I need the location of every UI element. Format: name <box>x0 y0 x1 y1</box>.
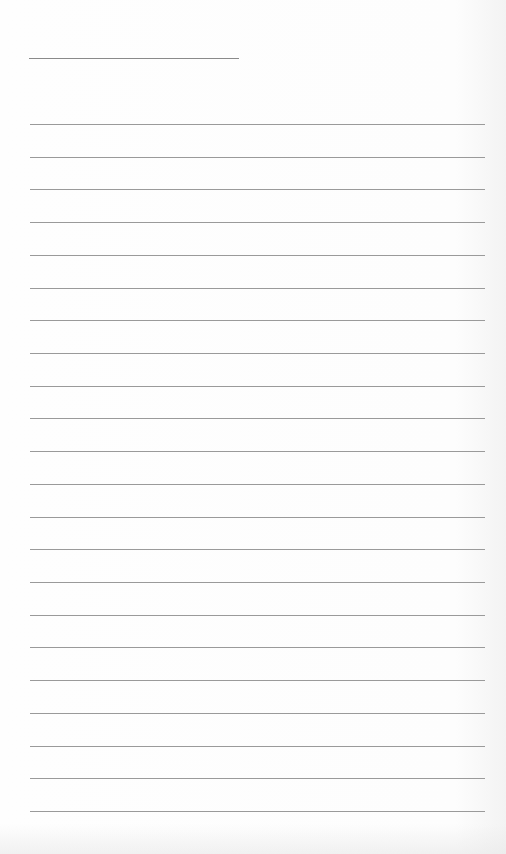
ruled-line <box>30 451 485 452</box>
ruled-line <box>30 157 485 158</box>
ruled-line <box>30 517 485 518</box>
ruled-line <box>30 582 485 583</box>
ruled-line <box>30 189 485 190</box>
ruled-line <box>30 386 485 387</box>
ruled-line <box>30 484 485 485</box>
ruled-line <box>30 288 485 289</box>
ruled-line <box>30 680 485 681</box>
ruled-line <box>30 320 485 321</box>
ruled-line <box>30 811 485 812</box>
ruled-line <box>30 124 485 125</box>
ruled-line <box>30 353 485 354</box>
lined-paper-page <box>0 0 506 854</box>
ruled-line <box>30 778 485 779</box>
ruled-line <box>30 549 485 550</box>
title-line <box>29 58 239 59</box>
ruled-line <box>30 615 485 616</box>
ruled-line <box>30 255 485 256</box>
ruled-line <box>30 746 485 747</box>
ruled-line <box>30 222 485 223</box>
ruled-line <box>30 647 485 648</box>
ruled-line <box>30 418 485 419</box>
ruled-line <box>30 713 485 714</box>
